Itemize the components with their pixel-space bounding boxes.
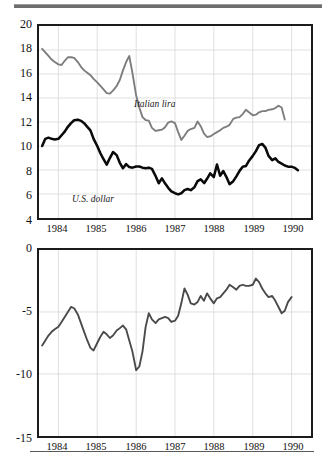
plot-frame-libor xyxy=(37,24,313,220)
figure-container: Three-month LIBOR xyxy=(0,0,336,462)
xtick-libor-1984: 1984 xyxy=(37,223,77,234)
xtick-libor-1986: 1986 xyxy=(116,223,156,234)
ytick-libor-4: 4 xyxy=(0,215,32,225)
gridlines-libor xyxy=(39,26,311,218)
panel-libor: Three-month LIBOR xyxy=(0,14,336,230)
ytick-libor-10: 10 xyxy=(0,141,32,151)
series-label-us-dollar: U.S. dollar xyxy=(72,194,114,204)
panel-interest-differential: Interest differential1 0 -5 -10 xyxy=(0,240,336,450)
ytick-libor-16: 16 xyxy=(0,68,32,78)
plot-differential xyxy=(39,250,311,436)
footnote-divider-rule xyxy=(30,451,314,452)
ytick-libor-14: 14 xyxy=(0,92,32,102)
plot-libor xyxy=(39,26,311,218)
series-line-us-dollar xyxy=(42,120,298,195)
ytick-differential-5: -5 xyxy=(0,306,32,316)
top-divider-rule xyxy=(14,4,322,8)
ytick-libor-6: 6 xyxy=(0,190,32,200)
series-line-interest-differential xyxy=(42,278,291,370)
xtick-libor-1988: 1988 xyxy=(194,223,234,234)
gridlines-differential xyxy=(39,250,311,436)
series-label-italian-lira: Italian lira xyxy=(134,99,175,109)
series-line-italian-lira xyxy=(42,49,285,140)
ytick-libor-8: 8 xyxy=(0,166,32,176)
ytick-differential-0: 0 xyxy=(0,243,32,253)
ytick-libor-18: 18 xyxy=(0,43,32,53)
ytick-differential-10: -10 xyxy=(0,369,32,379)
xtick-libor-1987: 1987 xyxy=(155,223,195,234)
xtick-libor-1989: 1989 xyxy=(234,223,274,234)
ytick-differential-15: -15 xyxy=(0,433,32,443)
ytick-libor-12: 12 xyxy=(0,117,32,127)
ytick-libor-20: 20 xyxy=(0,19,32,29)
xtick-libor-1985: 1985 xyxy=(76,223,116,234)
plot-frame-differential xyxy=(37,248,313,438)
xtick-libor-1990: 1990 xyxy=(273,223,313,234)
